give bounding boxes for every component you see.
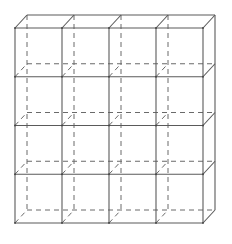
grid-vertex [202,76,204,78]
hidden-depth-edge [15,161,27,174]
hidden-depth-edge [15,64,27,77]
grid-vertex [14,222,16,224]
grid-vertex [108,173,110,175]
grid-vertex [202,173,204,175]
grid-vertex [108,125,110,127]
grid-vertex [202,222,204,224]
hidden-depth-edge [109,113,121,126]
hidden-depth-edge [156,210,168,223]
cube-grid-diagram [0,0,232,244]
grid-vertex [155,76,157,78]
hidden-depth-edge [109,161,121,174]
grid-vertex [61,173,63,175]
hidden-depth-edge [156,113,168,126]
cube-grid-svg [0,0,232,244]
right-depth-edge [203,113,215,126]
hidden-depth-edge [62,113,74,126]
top-depth-edge [156,15,168,28]
hidden-depth-edge [156,64,168,77]
grid-vertex [14,76,16,78]
top-depth-edge [15,15,27,28]
grid-vertex [61,76,63,78]
grid-vertex [202,125,204,127]
grid-vertex [108,222,110,224]
top-depth-edge [203,15,215,28]
grid-vertex [108,27,110,29]
grid-vertex [108,76,110,78]
grid-vertex [14,173,16,175]
right-depth-edge [203,210,215,223]
grid-vertex [155,27,157,29]
hidden-depth-edge [109,210,121,223]
grid-vertex [155,222,157,224]
grid-vertex [14,27,16,29]
hidden-depth-edge [156,161,168,174]
hidden-depth-edge [62,64,74,77]
hidden-depth-edge [62,161,74,174]
hidden-depth-edge [62,210,74,223]
grid-vertex [155,173,157,175]
top-depth-edge [109,15,121,28]
right-depth-edge [203,161,215,174]
hidden-depth-edge [15,210,27,223]
grid-vertex [202,27,204,29]
grid-vertex [61,222,63,224]
top-depth-edge [62,15,74,28]
grid-vertex [155,125,157,127]
grid-vertex [14,125,16,127]
hidden-depth-edge [15,113,27,126]
hidden-depth-edge [109,64,121,77]
grid-vertex [61,125,63,127]
grid-vertex [61,27,63,29]
right-depth-edge [203,64,215,77]
